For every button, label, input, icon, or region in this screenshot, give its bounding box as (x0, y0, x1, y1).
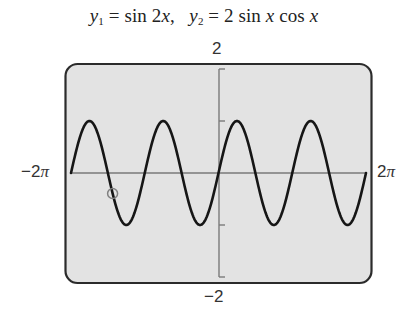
y-min-label: −2 (204, 287, 223, 307)
graph-screen (0, 0, 408, 310)
x-max-label: 2π (377, 162, 395, 182)
y-max-label: 2 (212, 39, 221, 59)
x-min-label: −2π (21, 162, 49, 182)
